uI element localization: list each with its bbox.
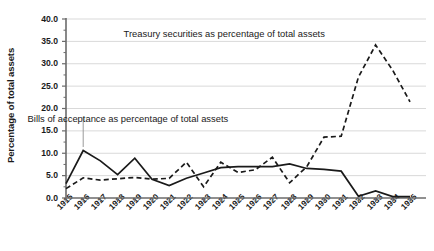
series-line-bills-of-acceptance xyxy=(66,151,410,197)
chart-figure: Percentage of total assets 40.035.030.02… xyxy=(0,0,434,251)
bills-label: Bills of acceptance as percentage of tot… xyxy=(28,114,229,123)
treasury-label: Treasury securities as percentage of tot… xyxy=(124,29,325,38)
